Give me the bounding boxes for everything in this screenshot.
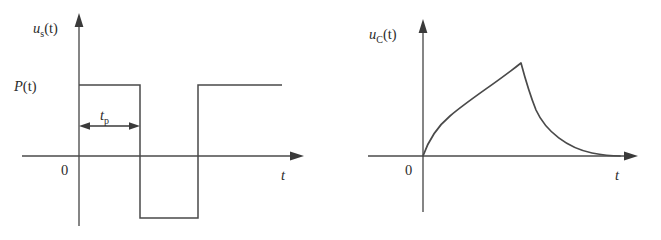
pulse-duration-left-arrow-icon	[79, 122, 90, 130]
pulse-duration-right-arrow-icon	[129, 122, 140, 130]
origin-label: 0	[61, 162, 68, 178]
capacitor-voltage-response-panel: uC(t) 0 t	[330, 0, 661, 240]
source-voltage-plot: us(t) P(t) tp 0 t	[0, 0, 330, 240]
y-axis-label-argument: (t)	[383, 26, 397, 43]
y-axis-arrow-icon	[75, 13, 84, 27]
amplitude-label-base: P	[13, 78, 23, 94]
x-axis-label: t	[281, 167, 286, 183]
y-axis-label-base: u	[369, 26, 376, 42]
pulse-duration-label: tp	[100, 107, 109, 126]
x-axis-label: t	[615, 167, 620, 183]
pulse-duration-label-subscript: p	[104, 115, 109, 126]
origin-label: 0	[405, 162, 412, 178]
x-axis-arrow-icon	[624, 152, 638, 161]
square-wave-trace	[79, 85, 282, 218]
y-axis-label: uC(t)	[369, 26, 397, 45]
capacitor-voltage-plot: uC(t) 0 t	[330, 0, 661, 240]
figure-root: us(t) P(t) tp 0 t	[0, 0, 661, 240]
y-axis-label: us(t)	[33, 20, 58, 39]
y-axis-arrow-icon	[419, 19, 428, 33]
y-axis-label-argument: (t)	[44, 20, 58, 37]
amplitude-label: P(t)	[13, 78, 37, 95]
y-axis-label-base: u	[33, 20, 40, 36]
capacitor-voltage-trace	[423, 63, 620, 156]
x-axis-arrow-icon	[290, 152, 304, 161]
source-voltage-waveform-panel: us(t) P(t) tp 0 t	[0, 0, 330, 240]
amplitude-label-argument: (t)	[23, 78, 37, 95]
